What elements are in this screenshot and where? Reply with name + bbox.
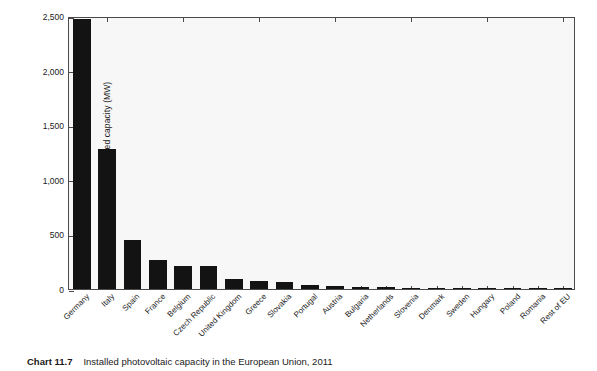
x-axis-labels: GermanyItalySpainFranceBelgiumCzech Repu… xyxy=(68,292,575,352)
bar xyxy=(276,282,294,289)
x-tick-label: Austria xyxy=(321,292,345,316)
bar xyxy=(402,288,420,289)
y-tick-label: 2,000 xyxy=(43,67,64,77)
top-tick-mark xyxy=(563,18,564,22)
bar xyxy=(73,19,91,289)
x-tick-label: Spain xyxy=(121,292,142,313)
top-tick-mark xyxy=(487,18,488,22)
x-tick-label: Slovenia xyxy=(393,292,421,320)
top-tick-mark xyxy=(411,18,412,22)
bar xyxy=(478,288,496,289)
x-tick-label: Poland xyxy=(498,292,522,316)
bar xyxy=(352,287,370,289)
bar xyxy=(250,281,268,289)
bar xyxy=(301,285,319,289)
x-tick-label: Portugal xyxy=(292,292,319,319)
x-tick-label: France xyxy=(143,292,167,316)
bar xyxy=(428,288,446,289)
bar xyxy=(326,286,344,289)
bar xyxy=(98,149,116,289)
top-tick-mark xyxy=(183,18,184,22)
y-tick-label: 1,500 xyxy=(43,121,64,131)
x-tick-label: Sweden xyxy=(444,292,471,319)
x-tick-label: Hungary xyxy=(469,292,497,320)
y-tick-label: 1,000 xyxy=(43,176,64,186)
bar xyxy=(529,288,547,289)
caption-text: Installed photovoltaic capacity in the E… xyxy=(83,356,332,367)
chart-caption: Chart 11.7Installed photovoltaic capacit… xyxy=(27,356,333,367)
bar xyxy=(554,288,572,289)
plot-area: Installed capacity (MW) 05001,0001,5002,… xyxy=(68,17,575,290)
x-tick-label: Slovakia xyxy=(266,292,294,320)
bar xyxy=(377,287,395,289)
bar xyxy=(124,240,142,289)
bar xyxy=(504,288,522,289)
y-tick-label: 500 xyxy=(50,230,64,240)
x-tick-label: Denmark xyxy=(417,292,446,321)
y-tick-label: 0 xyxy=(59,285,64,295)
bar xyxy=(149,260,167,289)
bar xyxy=(225,279,243,289)
bar xyxy=(453,288,471,289)
top-tick-mark xyxy=(107,18,108,22)
bar xyxy=(174,266,192,289)
x-tick-label: Italy xyxy=(100,292,117,309)
top-tick-mark xyxy=(335,18,336,22)
chart-figure: Installed capacity (MW) 05001,0001,5002,… xyxy=(0,0,597,371)
x-tick-label: Germany xyxy=(61,292,91,322)
top-tick-mark xyxy=(259,18,260,22)
caption-label: Chart 11.7 xyxy=(27,356,72,367)
y-tick-label: 2,500 xyxy=(43,12,64,22)
bar xyxy=(200,266,218,289)
